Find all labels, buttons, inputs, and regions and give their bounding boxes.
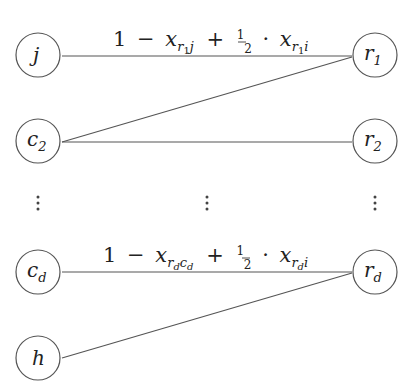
ellipsis-left: [37, 196, 40, 211]
bipartite-diagram: 1 − xr1j + 1 2 · xr1i 1 − xrdcd + 1 2 · …: [0, 0, 414, 390]
node-c2: c2: [16, 119, 60, 163]
ellipsis-middle: [206, 196, 209, 211]
ellipsis-right: [374, 196, 377, 211]
edge-label-cd-rd: 1 − xrdcd + 1 2 · xrdi: [103, 236, 308, 275]
edge-h-rd: [62, 273, 352, 358]
node-j: j: [16, 33, 60, 77]
node-h: h: [16, 336, 60, 380]
node-r2: r2: [353, 119, 397, 163]
edge-c2-r1: [62, 57, 352, 142]
node-r1: r1: [353, 33, 397, 77]
svg-text:h: h: [32, 346, 45, 370]
node-rd: rd: [353, 250, 397, 294]
edge-label-j-r1: 1 − xr1j + 1 2 · xr1i: [113, 20, 308, 58]
node-cd: cd: [16, 250, 60, 294]
